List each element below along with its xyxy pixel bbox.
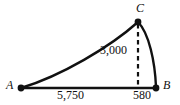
diagram-svg: [0, 0, 180, 105]
base-right-measurement-label: 580: [133, 89, 151, 101]
vertex-dot-C: [135, 19, 142, 26]
diagram-canvas: A B C 3,000 5,750 580: [0, 0, 180, 105]
height-measurement-label: 3,000: [100, 44, 127, 56]
curve-A-to-C-to-B: [21, 22, 156, 88]
vertex-label-c: C: [136, 2, 144, 14]
vertex-dot-A: [18, 85, 25, 92]
vertex-label-b: B: [163, 79, 170, 91]
vertex-dot-B: [153, 85, 160, 92]
vertex-label-a: A: [6, 79, 13, 91]
base-left-measurement-label: 5,750: [57, 89, 84, 101]
